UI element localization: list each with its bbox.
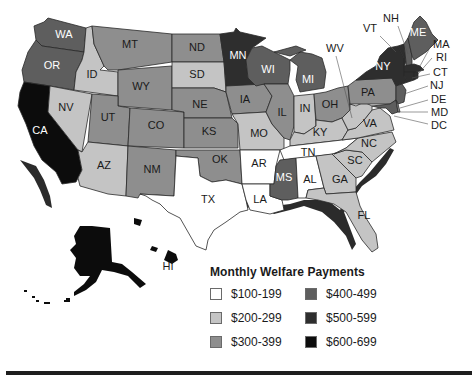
legend-swatch bbox=[305, 312, 317, 324]
legend-swatch bbox=[305, 336, 317, 348]
label-SC: SC bbox=[347, 154, 362, 166]
label-NE: NE bbox=[192, 98, 207, 110]
label-OK: OK bbox=[212, 153, 229, 165]
label-AK: AK bbox=[31, 265, 46, 277]
label-SD: SD bbox=[189, 68, 204, 80]
legend-swatch bbox=[305, 288, 317, 300]
label-KY: KY bbox=[313, 126, 328, 138]
label-WV: WV bbox=[326, 42, 344, 54]
label-CO: CO bbox=[148, 119, 165, 131]
label-MD: MD bbox=[431, 106, 448, 118]
ak-islands bbox=[24, 290, 70, 304]
label-WI: WI bbox=[261, 63, 274, 75]
legend-label: $300-399 bbox=[231, 335, 282, 349]
legend-label: $600-699 bbox=[326, 335, 377, 349]
label-GA: GA bbox=[332, 173, 349, 185]
legend-label: $100-199 bbox=[231, 287, 282, 301]
label-MT: MT bbox=[122, 38, 138, 50]
label-IN: IN bbox=[300, 102, 311, 114]
label-VT: VT bbox=[363, 22, 377, 34]
label-NY: NY bbox=[375, 60, 391, 72]
legend-item-300-399: $300-399 bbox=[210, 335, 305, 349]
label-AR: AR bbox=[251, 157, 266, 169]
label-CT: CT bbox=[433, 66, 448, 78]
state-RI[interactable] bbox=[414, 72, 418, 80]
label-MO: MO bbox=[250, 127, 268, 139]
label-MS: MS bbox=[276, 171, 293, 183]
label-DE: DE bbox=[431, 93, 446, 105]
label-ME: ME bbox=[410, 26, 427, 38]
label-TX: TX bbox=[201, 193, 216, 205]
label-LA: LA bbox=[253, 193, 267, 205]
legend-label: $200-299 bbox=[231, 311, 282, 325]
label-ID: ID bbox=[87, 68, 98, 80]
label-MI: MI bbox=[302, 73, 314, 85]
state-HI[interactable] bbox=[134, 218, 178, 264]
legend-item-400-499: $400-499 bbox=[305, 287, 400, 301]
legend-swatch bbox=[210, 312, 222, 324]
label-RI: RI bbox=[436, 51, 447, 63]
label-MN: MN bbox=[229, 49, 246, 61]
legend-label: $500-599 bbox=[326, 311, 377, 325]
label-DC: DC bbox=[431, 119, 447, 131]
label-WY: WY bbox=[132, 80, 150, 92]
label-FL: FL bbox=[358, 209, 371, 221]
legend-item-100-199: $100-199 bbox=[210, 287, 305, 301]
legend-title: Monthly Welfare Payments bbox=[210, 265, 410, 279]
label-NH: NH bbox=[383, 12, 399, 24]
label-IL: IL bbox=[277, 106, 286, 118]
map-shadow bbox=[20, 160, 52, 208]
label-NJ: NJ bbox=[430, 79, 443, 91]
label-ND: ND bbox=[189, 41, 205, 53]
state-AK[interactable] bbox=[70, 226, 146, 296]
label-NM: NM bbox=[143, 163, 160, 175]
label-IA: IA bbox=[240, 93, 251, 105]
label-VA: VA bbox=[363, 117, 378, 129]
legend-item-200-299: $200-299 bbox=[210, 311, 305, 325]
label-AL: AL bbox=[303, 173, 316, 185]
legend-swatch bbox=[210, 288, 222, 300]
legend-label: $400-499 bbox=[326, 287, 377, 301]
label-AZ: AZ bbox=[97, 159, 111, 171]
label-PA: PA bbox=[361, 86, 376, 98]
label-MA: MA bbox=[433, 38, 450, 50]
label-OH: OH bbox=[322, 98, 339, 110]
label-NC: NC bbox=[361, 137, 377, 149]
legend-item-600-699: $600-699 bbox=[305, 335, 400, 349]
legend-item-500-599: $500-599 bbox=[305, 311, 400, 325]
legend: Monthly Welfare Payments $100-199 $400-4… bbox=[210, 265, 410, 349]
label-TN: TN bbox=[301, 146, 316, 158]
label-HI: HI bbox=[163, 260, 174, 272]
label-WA: WA bbox=[55, 28, 73, 40]
label-CA: CA bbox=[32, 124, 48, 136]
label-UT: UT bbox=[101, 111, 116, 123]
bottom-rule bbox=[6, 371, 472, 375]
label-KS: KS bbox=[202, 125, 217, 137]
label-NV: NV bbox=[58, 101, 74, 113]
legend-swatch bbox=[210, 336, 222, 348]
label-OR: OR bbox=[44, 59, 61, 71]
